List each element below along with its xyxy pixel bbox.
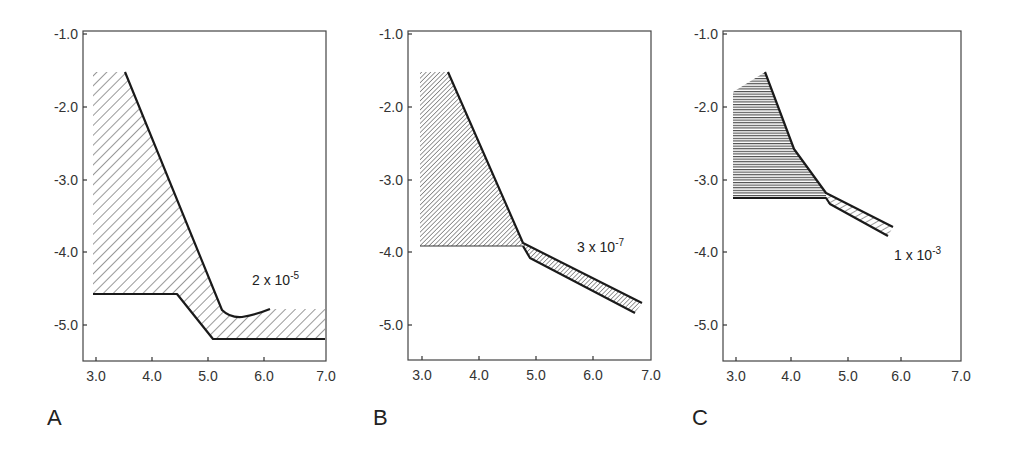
concentration-label: 3 x 10-7 <box>577 237 624 255</box>
x-tick-label: 7.0 <box>316 368 336 384</box>
y-axis: -1.0 -2.0 -3.0 -4.0 -5.0 <box>694 26 727 333</box>
panel-letter: B <box>373 405 388 430</box>
y-tick-label: -4.0 <box>54 244 78 260</box>
x-tick-label: 7.0 <box>951 368 971 384</box>
x-tick-label: 5.0 <box>838 368 858 384</box>
y-tick-label: -4.0 <box>379 244 403 260</box>
x-tick-label: 7.0 <box>641 367 661 383</box>
stability-region <box>420 72 642 313</box>
y-tick-label: -3.0 <box>379 172 403 188</box>
x-tick-label: 4.0 <box>142 368 162 384</box>
x-tick-label: 3.0 <box>412 367 432 383</box>
stability-region <box>93 72 325 339</box>
y-tick-label: -5.0 <box>54 317 78 333</box>
y-tick-label: -3.0 <box>54 172 78 188</box>
panel-letter: A <box>47 405 62 430</box>
figure: -1.0 -2.0 -3.0 -4.0 -5.0 3.0 4.0 5.0 6.0… <box>0 0 1021 451</box>
y-tick-label: -1.0 <box>694 26 718 42</box>
y-tick-label: -3.0 <box>694 172 718 188</box>
y-tick-label: -4.0 <box>694 244 718 260</box>
concentration-label: 2 x 10-5 <box>252 270 299 288</box>
y-tick-label: -5.0 <box>379 317 403 333</box>
x-tick-label: 4.0 <box>781 368 801 384</box>
y-tick-label: -2.0 <box>694 99 718 115</box>
y-tick-label: -5.0 <box>694 317 718 333</box>
panel-a: -1.0 -2.0 -3.0 -4.0 -5.0 3.0 4.0 5.0 6.0… <box>47 26 336 430</box>
y-tick-label: -2.0 <box>379 99 403 115</box>
x-tick-label: 4.0 <box>469 367 489 383</box>
stability-region-tail <box>826 193 893 236</box>
y-axis: -1.0 -2.0 -3.0 -4.0 -5.0 <box>379 26 412 333</box>
y-tick-label: -1.0 <box>54 26 78 42</box>
x-tick-label: 3.0 <box>726 368 746 384</box>
y-axis: -1.0 -2.0 -3.0 -4.0 -5.0 <box>54 26 87 333</box>
concentration-label: 1 x 10-3 <box>894 245 941 263</box>
x-tick-label: 5.0 <box>526 367 546 383</box>
y-tick-label: -2.0 <box>54 99 78 115</box>
x-tick-label: 6.0 <box>891 368 911 384</box>
panel-b: -1.0 -2.0 -3.0 -4.0 -5.0 3.0 4.0 5.0 6.0… <box>373 26 661 430</box>
x-tick-label: 3.0 <box>86 368 106 384</box>
panel-c: -1.0 -2.0 -3.0 -4.0 -5.0 3.0 4.0 5.0 6.0… <box>692 26 971 430</box>
stability-region <box>733 72 826 198</box>
y-tick-label: -1.0 <box>379 26 403 42</box>
panel-letter: C <box>692 405 708 430</box>
x-tick-label: 6.0 <box>583 367 603 383</box>
x-tick-label: 5.0 <box>198 368 218 384</box>
x-tick-label: 6.0 <box>254 368 274 384</box>
